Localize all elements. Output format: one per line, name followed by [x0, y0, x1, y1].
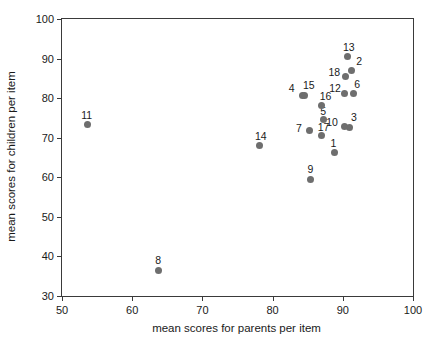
x-tick-mark — [413, 296, 414, 301]
x-axis-title: mean scores for parents per item — [61, 322, 412, 334]
data-point-marker — [306, 127, 313, 134]
y-tick-label: 50 — [42, 211, 54, 223]
data-point-marker — [307, 176, 314, 183]
y-axis-title: mean scores for children per item — [0, 18, 22, 295]
data-point-marker — [256, 142, 263, 149]
data-point-marker — [301, 92, 308, 99]
plot-area: 30405060708090100 5060708090100 12345678… — [61, 18, 414, 297]
data-point-label: 17 — [318, 122, 329, 133]
y-tick-label: 80 — [42, 92, 54, 104]
x-tick-label: 100 — [404, 304, 422, 316]
data-point-marker — [331, 149, 338, 156]
y-tick-label: 60 — [42, 171, 54, 183]
x-tick-mark — [62, 296, 63, 301]
data-point-label: 18 — [329, 67, 340, 78]
y-tick-mark — [57, 217, 62, 218]
x-tick-label: 70 — [196, 304, 208, 316]
data-point-label: 14 — [255, 131, 266, 142]
y-tick-mark — [57, 59, 62, 60]
y-tick-label: 30 — [42, 290, 54, 302]
data-point-marker — [348, 67, 355, 74]
y-tick-label: 100 — [36, 13, 54, 25]
data-point-marker — [318, 102, 325, 109]
y-tick-label: 90 — [42, 53, 54, 65]
data-point-marker — [318, 132, 325, 139]
data-point-label: 3 — [351, 112, 357, 123]
x-tick-mark — [202, 296, 203, 301]
data-point-label: 11 — [81, 110, 92, 121]
data-point-label: 8 — [155, 255, 161, 266]
x-tick-label: 60 — [126, 304, 138, 316]
scatter-chart-figure: 30405060708090100 5060708090100 12345678… — [0, 0, 443, 349]
data-point-label: 6 — [354, 79, 360, 90]
data-point-label: 13 — [343, 42, 354, 53]
data-point-marker — [155, 267, 162, 274]
y-tick-mark — [57, 19, 62, 20]
data-point-marker — [341, 123, 348, 130]
y-tick-mark — [57, 256, 62, 257]
data-point-marker — [342, 73, 349, 80]
y-tick-label: 70 — [42, 132, 54, 144]
x-tick-label: 50 — [56, 304, 68, 316]
data-point-marker — [350, 90, 357, 97]
data-point-label: 7 — [296, 123, 302, 134]
y-tick-label: 40 — [42, 250, 54, 262]
y-tick-mark — [57, 138, 62, 139]
x-tick-label: 90 — [337, 304, 349, 316]
data-point-label: 15 — [303, 80, 314, 91]
data-point-marker — [341, 90, 348, 97]
x-tick-mark — [343, 296, 344, 301]
data-point-marker — [84, 121, 91, 128]
y-tick-mark — [57, 177, 62, 178]
data-point-label: 4 — [289, 83, 295, 94]
x-tick-label: 80 — [266, 304, 278, 316]
data-point-label: 9 — [308, 164, 314, 175]
x-tick-mark — [273, 296, 274, 301]
x-tick-mark — [132, 296, 133, 301]
y-tick-mark — [57, 98, 62, 99]
data-point-label: 1 — [330, 138, 336, 149]
data-point-marker — [344, 53, 351, 60]
data-point-label: 16 — [320, 91, 331, 102]
data-point-label: 2 — [356, 56, 362, 67]
